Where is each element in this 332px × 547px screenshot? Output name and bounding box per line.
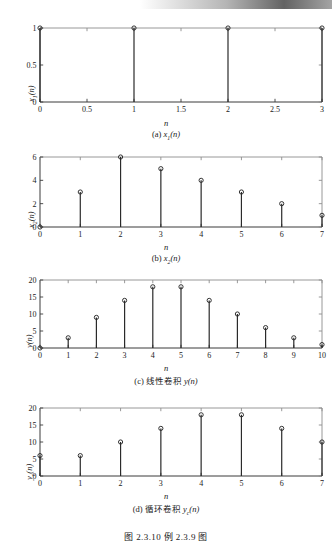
panel-c-ylabel: y(n) <box>24 334 34 348</box>
panel-d-caption: (d) 循环卷积 yc(n) <box>0 502 332 516</box>
svg-text:4: 4 <box>199 230 203 239</box>
figure-page: x1(n) 00.511.522.5300.51 n (a) x1(n) x2(… <box>0 0 332 547</box>
svg-text:2.5: 2.5 <box>270 105 280 114</box>
panel-c-plot: y(n) 01234567891005101520 <box>0 272 332 364</box>
panel-a-plot: x1(n) 00.511.522.5300.51 <box>0 18 332 118</box>
panel-b-xlabel: n <box>0 242 332 252</box>
panel-b-svg: 012345670246 <box>0 148 332 243</box>
svg-text:4: 4 <box>33 176 37 185</box>
panel-a: x1(n) 00.511.522.5300.51 n (a) x1(n) <box>0 18 332 118</box>
svg-text:6: 6 <box>207 351 211 360</box>
svg-text:10: 10 <box>318 351 326 360</box>
svg-text:6: 6 <box>280 479 284 488</box>
svg-text:5: 5 <box>179 351 183 360</box>
svg-text:2: 2 <box>119 479 123 488</box>
panel-c-caption-cn: 线性卷积 <box>146 376 182 386</box>
svg-text:0: 0 <box>38 351 42 360</box>
svg-text:7: 7 <box>320 230 324 239</box>
svg-text:1.5: 1.5 <box>176 105 186 114</box>
svg-text:1: 1 <box>78 479 82 488</box>
panel-c-caption: (c) 线性卷积 y(n) <box>0 374 332 386</box>
svg-text:3: 3 <box>159 479 163 488</box>
svg-text:7: 7 <box>320 479 324 488</box>
svg-text:1: 1 <box>66 351 70 360</box>
panel-b-plot: x2(n) 012345670246 <box>0 148 332 243</box>
panel-d: yc(n) 0123456705101520 n (d) 循环卷积 yc(n) <box>0 400 332 492</box>
svg-text:3: 3 <box>123 351 127 360</box>
panel-c-svg: 01234567891005101520 <box>0 272 332 364</box>
svg-text:0: 0 <box>38 230 42 239</box>
svg-text:6: 6 <box>33 153 37 162</box>
panel-d-xlabel: n <box>0 491 332 501</box>
panel-b-ylabel: x2(n) <box>26 211 38 228</box>
svg-text:3: 3 <box>159 230 163 239</box>
figure-caption: 图 2.3.10 例 2.3.9 图 <box>0 530 332 543</box>
svg-text:10: 10 <box>29 438 37 447</box>
svg-text:4: 4 <box>151 351 155 360</box>
svg-text:5: 5 <box>239 479 243 488</box>
svg-text:3: 3 <box>320 105 324 114</box>
svg-text:1: 1 <box>33 24 37 33</box>
svg-text:6: 6 <box>280 230 284 239</box>
panel-a-svg: 00.511.522.5300.51 <box>0 18 332 118</box>
svg-text:5: 5 <box>33 455 37 464</box>
svg-text:10: 10 <box>29 310 37 319</box>
svg-text:0.5: 0.5 <box>27 61 37 70</box>
svg-text:2: 2 <box>94 351 98 360</box>
panel-d-caption-cn: 循环卷积 <box>145 504 181 514</box>
svg-text:2: 2 <box>226 105 230 114</box>
panel-a-ylabel: x1(n) <box>26 85 38 102</box>
panel-d-svg: 0123456705101520 <box>0 400 332 492</box>
svg-text:0: 0 <box>38 479 42 488</box>
svg-text:15: 15 <box>29 293 37 302</box>
svg-text:20: 20 <box>29 404 37 413</box>
svg-text:0.5: 0.5 <box>82 105 92 114</box>
svg-text:1: 1 <box>132 105 136 114</box>
panel-b: x2(n) 012345670246 n (b) x2(n) <box>0 148 332 243</box>
panel-c: y(n) 01234567891005101520 n (c) 线性卷积 y(n… <box>0 272 332 364</box>
panel-d-plot: yc(n) 0123456705101520 <box>0 400 332 492</box>
svg-text:15: 15 <box>29 421 37 430</box>
panel-d-ylabel: yc(n) <box>24 464 36 480</box>
svg-text:9: 9 <box>292 351 296 360</box>
panel-c-xlabel: n <box>0 363 332 373</box>
svg-text:4: 4 <box>199 479 203 488</box>
svg-text:1: 1 <box>78 230 82 239</box>
svg-text:7: 7 <box>235 351 239 360</box>
panel-a-caption: (a) x1(n) <box>0 129 332 141</box>
svg-text:20: 20 <box>29 276 37 285</box>
svg-text:2: 2 <box>119 230 123 239</box>
panel-b-caption: (b) x2(n) <box>0 253 332 265</box>
svg-text:2: 2 <box>33 200 37 209</box>
svg-text:8: 8 <box>264 351 268 360</box>
page-header-bar <box>140 0 332 9</box>
svg-text:0: 0 <box>38 105 42 114</box>
panel-a-xlabel: n <box>0 118 332 128</box>
svg-text:5: 5 <box>239 230 243 239</box>
